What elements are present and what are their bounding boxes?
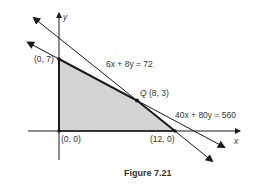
point-label-12-0: (12, 0): [150, 135, 175, 144]
figure-caption: Figure 7.21: [124, 168, 172, 178]
point-label-origin: (0, 0): [61, 135, 81, 144]
vertex-origin: [57, 129, 61, 133]
line-label-1: 6x + 8y = 72: [106, 60, 153, 69]
point-label-q: Q (8, 3): [140, 89, 169, 98]
x-axis-label: x: [234, 137, 238, 146]
q-coords: (8, 3): [149, 88, 169, 98]
constraint-line-1-ext: [175, 131, 212, 161]
q-name: Q: [140, 88, 147, 98]
point-label-0-7: (0, 7): [34, 55, 54, 64]
lp-graph: [0, 0, 254, 186]
vertex-0-7: [57, 57, 61, 61]
vertex-12-0: [173, 129, 177, 133]
y-axis-label: y: [63, 13, 67, 22]
line-label-2: 40x + 80y = 560: [175, 111, 236, 120]
vertex-q: [135, 99, 139, 103]
